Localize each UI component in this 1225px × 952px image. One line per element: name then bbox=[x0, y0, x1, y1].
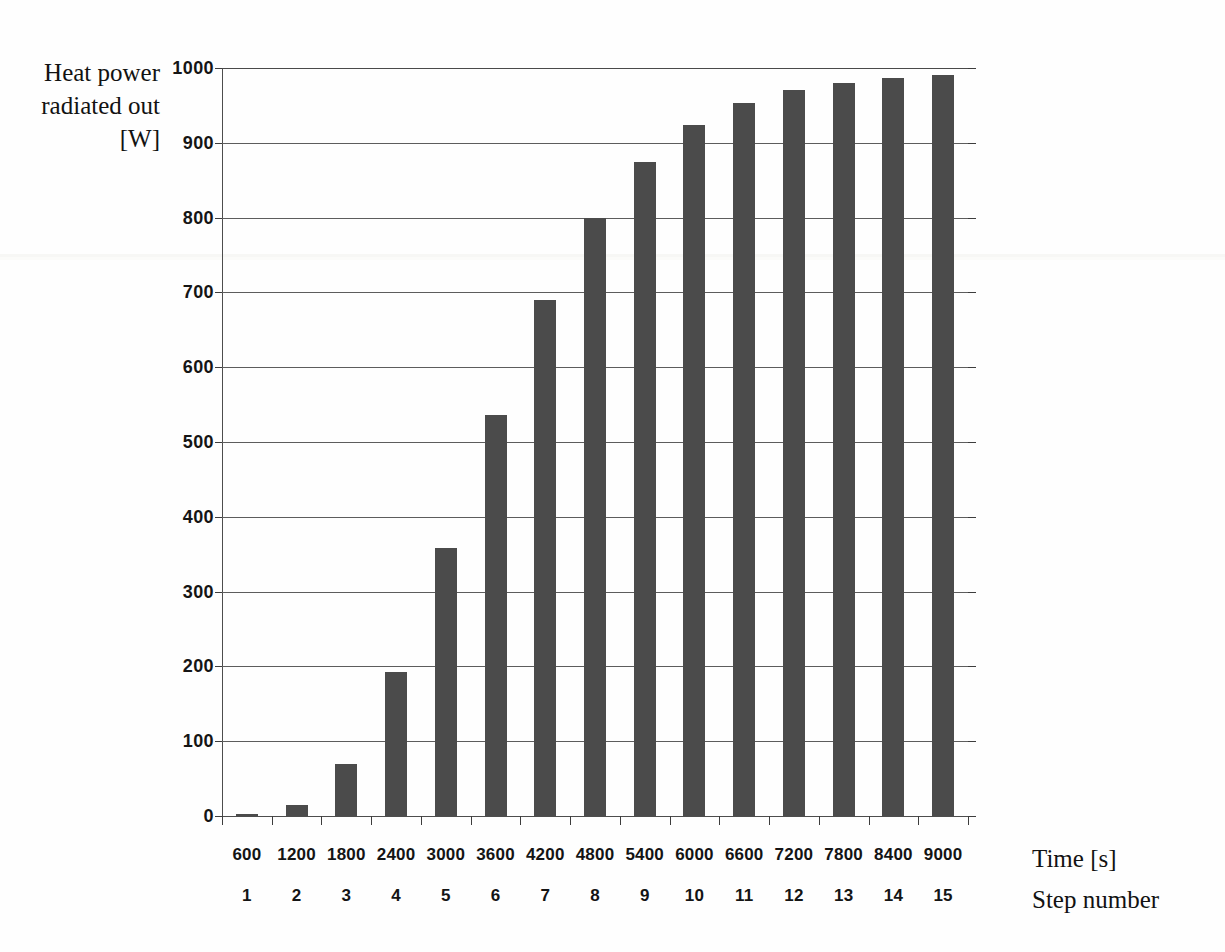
x-axis-tick bbox=[620, 816, 621, 825]
y-axis-tick-right bbox=[968, 741, 976, 742]
y-axis-tick-label: 500 bbox=[150, 432, 214, 453]
x-axis-tick-labels-step: 123456789101112131415 bbox=[222, 886, 968, 910]
chart-page: Heat power radiated out [W] 010020030040… bbox=[0, 0, 1225, 952]
y-axis-tick-label: 700 bbox=[150, 282, 214, 303]
bar[interactable] bbox=[236, 814, 258, 816]
bar[interactable] bbox=[584, 218, 606, 816]
x-axis-tick bbox=[371, 816, 372, 825]
y-axis-tick bbox=[215, 741, 222, 742]
bar[interactable] bbox=[783, 90, 805, 816]
x-axis-tick-label-step: 10 bbox=[685, 886, 704, 906]
x-axis-tick-label-time: 9000 bbox=[924, 845, 963, 865]
x-axis-tick bbox=[471, 816, 472, 825]
x-axis-tick bbox=[869, 816, 870, 825]
x-axis-tick bbox=[321, 816, 322, 825]
y-axis-tick-right bbox=[968, 218, 976, 219]
x-axis-tick-label-step: 3 bbox=[342, 886, 352, 906]
y-axis-tick bbox=[215, 218, 222, 219]
x-axis-tick-label-time: 2400 bbox=[377, 845, 416, 865]
x-axis-tick-label-step: 14 bbox=[884, 886, 903, 906]
bar[interactable] bbox=[385, 672, 407, 816]
x-axis-tick bbox=[769, 816, 770, 825]
x-axis-tick-label-step: 13 bbox=[834, 886, 853, 906]
bar[interactable] bbox=[634, 162, 656, 817]
y-axis-title-line-3: [W] bbox=[8, 122, 160, 155]
bar[interactable] bbox=[335, 764, 357, 816]
y-axis-title-line-2: radiated out bbox=[8, 89, 160, 122]
bar[interactable] bbox=[286, 805, 308, 816]
y-axis-tick-right bbox=[968, 292, 976, 293]
x-axis-tick bbox=[968, 816, 969, 825]
y-axis-tick-label: 800 bbox=[150, 207, 214, 228]
y-axis-tick bbox=[215, 143, 222, 144]
y-axis-tick bbox=[215, 68, 222, 69]
x-axis-tick bbox=[520, 816, 521, 825]
x-axis-tick bbox=[819, 816, 820, 825]
x-axis-tick-label-step: 1 bbox=[242, 886, 252, 906]
bar[interactable] bbox=[833, 83, 855, 816]
bar[interactable] bbox=[882, 78, 904, 816]
x-axis-tick-label-step: 2 bbox=[292, 886, 302, 906]
x-axis-tick-label-time: 4800 bbox=[576, 845, 615, 865]
x-axis-tick bbox=[670, 816, 671, 825]
y-axis-tick bbox=[215, 442, 222, 443]
bar[interactable] bbox=[534, 300, 556, 816]
gridline bbox=[222, 143, 968, 144]
x-axis-tick-label-step: 15 bbox=[933, 886, 952, 906]
y-axis-tick bbox=[215, 367, 222, 368]
x-axis-tick bbox=[421, 816, 422, 825]
x-axis-tick bbox=[272, 816, 273, 825]
y-axis-tick-label: 300 bbox=[150, 581, 214, 602]
x-axis-tick-label-step: 8 bbox=[590, 886, 600, 906]
y-axis-tick-right bbox=[968, 68, 976, 69]
y-axis-tick-right bbox=[968, 816, 976, 817]
x-axis-title-step: Step number bbox=[1032, 886, 1159, 914]
x-axis-tick-label-time: 4200 bbox=[526, 845, 565, 865]
y-axis-tick bbox=[215, 517, 222, 518]
x-axis-tick-label-step: 9 bbox=[640, 886, 650, 906]
y-axis-tick bbox=[215, 666, 222, 667]
x-axis-tick-label-step: 6 bbox=[491, 886, 501, 906]
bar[interactable] bbox=[485, 415, 507, 816]
y-axis-tick-right bbox=[968, 367, 976, 368]
gridline bbox=[222, 68, 968, 69]
y-axis-tick-labels: 01002003004005006007008009001000 bbox=[150, 68, 214, 816]
y-axis-title: Heat power radiated out [W] bbox=[8, 56, 160, 155]
plot-area bbox=[222, 68, 968, 816]
bar[interactable] bbox=[683, 125, 705, 816]
x-axis-tick-label-time: 7200 bbox=[775, 845, 814, 865]
y-axis-tick-label: 600 bbox=[150, 357, 214, 378]
x-axis-tick-label-step: 5 bbox=[441, 886, 451, 906]
bar[interactable] bbox=[932, 75, 954, 816]
x-axis-tick-label-step: 7 bbox=[540, 886, 550, 906]
x-axis-tick-label-time: 5400 bbox=[625, 845, 664, 865]
y-axis-tick-right bbox=[968, 592, 976, 593]
y-axis-tick-label: 0 bbox=[150, 806, 214, 827]
x-axis-tick bbox=[918, 816, 919, 825]
y-axis-tick bbox=[215, 292, 222, 293]
y-axis-tick bbox=[215, 592, 222, 593]
x-axis-tick-label-time: 6600 bbox=[725, 845, 764, 865]
bar[interactable] bbox=[733, 103, 755, 816]
x-axis-tick-label-step: 12 bbox=[784, 886, 803, 906]
x-axis-tick-label-time: 1200 bbox=[277, 845, 316, 865]
x-axis-tick bbox=[719, 816, 720, 825]
y-axis-tick-label: 900 bbox=[150, 132, 214, 153]
x-axis-title-time: Time [s] bbox=[1032, 845, 1117, 873]
x-axis-tick-label-time: 3000 bbox=[426, 845, 465, 865]
y-axis-tick-right bbox=[968, 666, 976, 667]
y-axis-tick-label: 1000 bbox=[150, 58, 214, 79]
bar[interactable] bbox=[435, 548, 457, 816]
x-axis-tick bbox=[222, 816, 223, 825]
x-axis-tick-label-step: 4 bbox=[391, 886, 401, 906]
y-axis-title-line-1: Heat power bbox=[8, 56, 160, 89]
x-axis-tick-label-step: 11 bbox=[735, 886, 753, 906]
y-axis-tick-right bbox=[968, 143, 976, 144]
x-axis-line bbox=[222, 816, 968, 817]
x-axis-tick-label-time: 3600 bbox=[476, 845, 515, 865]
y-axis-tick-right bbox=[968, 517, 976, 518]
x-axis-tick-label-time: 600 bbox=[232, 845, 261, 865]
x-axis-tick-labels-time: 6001200180024003000360042004800540060006… bbox=[222, 845, 968, 869]
x-axis-tick-label-time: 1800 bbox=[327, 845, 366, 865]
x-axis-tick-label-time: 8400 bbox=[874, 845, 913, 865]
